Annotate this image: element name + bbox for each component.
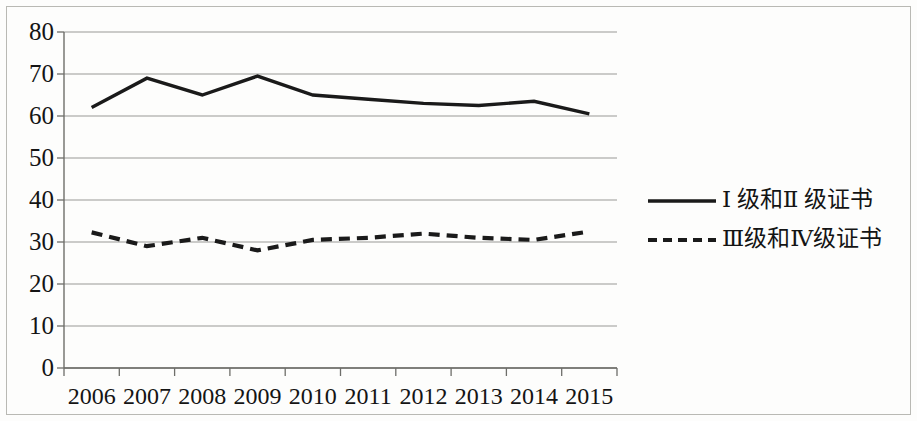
- gridlines-group: [64, 32, 617, 368]
- x-axis-ticks-group: [64, 368, 617, 376]
- y-axis-tick-label: 80: [8, 19, 54, 44]
- chart-figure: 80706050403020100 2006200720082009201020…: [0, 0, 917, 421]
- series-line-2: [92, 232, 590, 251]
- y-axis-tick-label: 50: [8, 145, 54, 170]
- legend-label-1: Ⅰ 级和Ⅱ 级证书: [722, 188, 873, 211]
- legend-label-2: Ⅲ级和Ⅳ级证书: [722, 227, 882, 250]
- y-axis-tick-label: 40: [8, 187, 54, 212]
- y-axis-tick-label: 0: [8, 355, 54, 380]
- legend-line-marks-group: [648, 201, 716, 240]
- y-axis-tick-label: 10: [8, 313, 54, 338]
- y-axis-tick-label: 20: [8, 271, 54, 296]
- y-axis-tick-label: 60: [8, 103, 54, 128]
- y-axis-ticks-group: [57, 32, 64, 368]
- x-axis-tick-label: 2015: [556, 384, 622, 408]
- data-series-group: [92, 76, 590, 250]
- y-axis-tick-label: 30: [8, 229, 54, 254]
- y-axis-tick-label: 70: [8, 61, 54, 86]
- series-line-1: [92, 76, 590, 114]
